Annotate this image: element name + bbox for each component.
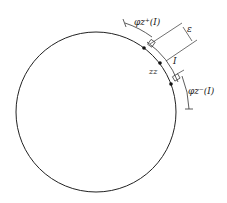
epsilon-line-2 (166, 40, 197, 61)
tick-right (177, 70, 184, 74)
label-point-z: zz (148, 67, 158, 76)
label-phi-plus: φz⁺(I) (134, 17, 161, 27)
label-phi-minus: φz⁻(I) (188, 86, 215, 96)
point-z (158, 61, 162, 65)
point-right-endpoint (169, 82, 173, 86)
label-epsilon: ε (187, 24, 192, 34)
main-circle (16, 32, 176, 192)
label-interval: I (172, 56, 177, 66)
point-left-endpoint (142, 46, 146, 50)
circle-diagram: φz⁺(I) ε I zz φz⁻(I) (0, 0, 227, 203)
